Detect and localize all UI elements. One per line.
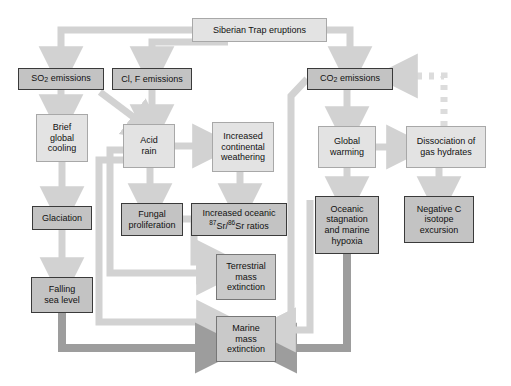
node-global-warming[interactable]: Globalwarming	[318, 126, 376, 168]
node-fungal-proliferation[interactable]: Fungalproliferation	[121, 203, 183, 236]
node-so2-emissions[interactable]: SO2 emissions	[18, 68, 104, 90]
node-acid-rain[interactable]: Acidrain	[123, 124, 175, 168]
node-label: Glaciation	[42, 213, 82, 224]
node-falling-sea-level[interactable]: Fallingsea level	[31, 277, 93, 313]
node-label: Cl, F emissions	[121, 74, 183, 85]
node-label: Briefglobalcooling	[48, 122, 77, 154]
node-siberian-trap-eruptions[interactable]: Siberian Trap eruptions	[192, 18, 327, 42]
edge-stagnation-to-marine	[286, 254, 347, 348]
node-co2-emissions[interactable]: CO2 emissions	[307, 68, 393, 90]
edge-sealevel-to-marine	[62, 313, 206, 348]
node-oceanic-stagnation-and-marine-hypoxia[interactable]: Oceanicstagnationand marinehypoxia	[315, 196, 379, 254]
node-label: Fallingsea level	[44, 284, 80, 305]
node-label: CO2 emissions	[320, 73, 380, 84]
node-negative-c-isotope-excursion[interactable]: Negative Cisotopeexcursion	[404, 196, 474, 243]
node-label: Marinemassextinction	[227, 323, 265, 355]
node-increased-oceanic-sr-ratios[interactable]: Increased oceanic 87Sr/86Sr ratios	[191, 203, 287, 236]
node-terrestrial-mass-extinction[interactable]: Terrestrialmassextinction	[216, 254, 276, 300]
node-label: Dissociation ofgas hydrates	[417, 136, 476, 157]
node-label: Acidrain	[140, 135, 158, 156]
node-glaciation[interactable]: Glaciation	[32, 206, 92, 230]
flowchart-diagram: Siberian Trap eruptions SO2 emissions Cl…	[0, 0, 511, 386]
node-label: Globalwarming	[330, 136, 364, 157]
node-label: Terrestrialmassextinction	[226, 261, 266, 293]
edge-siberian-to-clf	[152, 42, 228, 56]
edge-siberian-to-co2	[327, 30, 350, 56]
edge-co2-to-marine	[286, 79, 307, 330]
node-label: Oceanicstagnationand marinehypoxia	[324, 204, 369, 246]
node-cl-f-emissions[interactable]: Cl, F emissions	[112, 68, 192, 90]
node-label: Fungalproliferation	[128, 209, 175, 230]
node-brief-global-cooling[interactable]: Briefglobalcooling	[36, 114, 88, 162]
node-label: SO2 emissions	[31, 73, 90, 84]
node-label: Negative Cisotopeexcursion	[417, 204, 462, 236]
node-label: Increased oceanic 87Sr/86Sr ratios	[202, 208, 275, 231]
node-label: Increasedcontinentalweathering	[221, 131, 265, 163]
edge-so2-to-acid	[100, 92, 140, 122]
node-label: Siberian Trap eruptions	[213, 25, 306, 36]
node-dissociation-of-gas-hydrates[interactable]: Dissociation ofgas hydrates	[406, 126, 486, 168]
node-marine-mass-extinction[interactable]: Marinemassextinction	[216, 316, 276, 362]
node-increased-continental-weathering[interactable]: Increasedcontinentalweathering	[212, 122, 274, 172]
edge-hydrates-to-co2-feedback	[408, 76, 444, 126]
